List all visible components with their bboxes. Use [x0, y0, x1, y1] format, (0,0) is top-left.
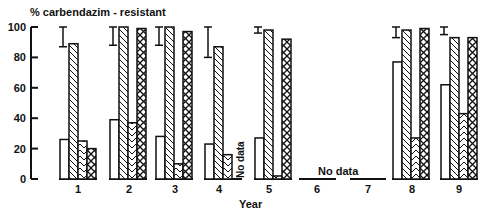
bars [59, 27, 478, 179]
x-tick-label-7: 7 [365, 183, 371, 195]
bar-diagonal-year-2 [119, 27, 128, 179]
bar-chevron-year-9 [459, 114, 468, 179]
y-tick-label: 20 [14, 143, 26, 155]
x-tick-label-4: 4 [216, 183, 223, 195]
y-tick-label: 40 [14, 112, 26, 124]
bar-diagonal-year-5 [264, 30, 273, 179]
bar-cross-year-1 [87, 149, 96, 179]
bar-chart: 020406080100 123456789 % carbendazim - r… [0, 0, 486, 213]
bar-none-year-2 [110, 120, 119, 179]
bar-diagonal-year-8 [402, 30, 411, 179]
bar-none-year-4 [205, 144, 214, 179]
bar-chevron-year-2 [128, 123, 137, 179]
x-tick-labels: 123456789 [75, 183, 462, 195]
bar-chevron-year-5 [273, 176, 282, 179]
bar-none-year-1 [60, 139, 69, 179]
bar-diagonal-year-4 [214, 47, 223, 179]
no-data-annotation-4: No data [235, 141, 246, 178]
y-tick-label: 0 [20, 173, 26, 185]
x-axis-label: Year [239, 198, 263, 210]
no-data-annotation-6-7: No data [318, 165, 359, 177]
bar-cross-year-3 [183, 32, 192, 179]
bar-cross-year-8 [420, 29, 429, 179]
bar-diagonal-year-3 [165, 27, 174, 179]
x-tick-label-6: 6 [314, 183, 320, 195]
y-ticks: 020406080100 [8, 21, 38, 185]
bar-diagonal-year-9 [450, 38, 459, 179]
bar-cross-year-5 [282, 39, 291, 179]
bar-cross-year-9 [468, 38, 477, 179]
y-axis-label: % carbendazim - resistant [30, 6, 166, 18]
bar-chevron-year-4 [223, 155, 232, 179]
bar-none-year-5 [255, 138, 264, 179]
bar-none-year-3 [156, 136, 165, 179]
bar-chevron-year-8 [411, 138, 420, 179]
x-tick-label-2: 2 [126, 183, 132, 195]
bar-none-year-9 [441, 85, 450, 179]
x-tick-label-9: 9 [456, 183, 462, 195]
x-tick-label-1: 1 [75, 183, 81, 195]
y-tick-label: 60 [14, 82, 26, 94]
bar-chevron-year-1 [78, 141, 87, 179]
error-bars [59, 27, 448, 57]
y-tick-label: 100 [8, 21, 26, 33]
bar-diagonal-year-1 [69, 44, 78, 179]
bar-none-year-8 [393, 62, 402, 179]
x-tick-label-5: 5 [266, 183, 272, 195]
x-tick-label-8: 8 [409, 183, 415, 195]
bar-chevron-year-3 [174, 164, 183, 179]
bar-cross-year-2 [137, 29, 146, 179]
y-tick-label: 80 [14, 51, 26, 63]
x-tick-label-3: 3 [172, 183, 178, 195]
